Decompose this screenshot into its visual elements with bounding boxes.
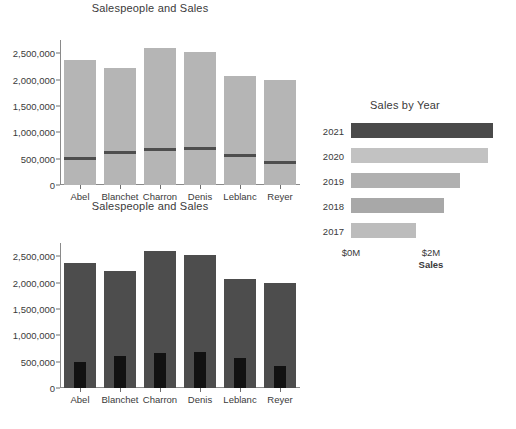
x-axis-label-denis: Denis	[188, 394, 212, 405]
bar-denis[interactable]	[184, 52, 216, 185]
y-axis-label-2018: 2018	[323, 200, 351, 211]
x-axis-tick-mark	[280, 185, 281, 189]
salespeople-sales-chart-bottom: Salespeople and Sales 0500,0001,000,0001…	[0, 198, 330, 429]
y-axis-tick-label: 2,500,000	[13, 48, 60, 59]
y-axis-tick-mark	[56, 361, 60, 362]
x-axis-label-blanchet: Blanchet	[102, 394, 139, 405]
y-axis-tick-mark	[56, 308, 60, 309]
y-axis-tick-mark	[56, 105, 60, 106]
sales-by-year-chart: Sales by Year Sales 20212020201920182017…	[310, 95, 516, 285]
x-axis-label-reyer: Reyer	[267, 394, 292, 405]
y-axis-tick-label: 2,000,000	[13, 74, 60, 85]
x-axis-tick-mark	[240, 185, 241, 189]
y-axis-tick-label: 500,000	[21, 356, 60, 367]
plot-area-year: Sales 20212020201920182017$0M$2M	[351, 118, 511, 243]
y-axis-line-top	[60, 40, 61, 185]
y-axis-tick-mark	[56, 335, 60, 336]
reference-line-blanchet[interactable]	[104, 151, 136, 154]
x-axis-tick-label: $0M	[342, 247, 360, 258]
x-axis-tick-mark	[160, 185, 161, 189]
chart-title-top: Salespeople and Sales	[0, 2, 300, 14]
y-axis-tick-mark	[56, 282, 60, 283]
reference-line-denis[interactable]	[184, 147, 216, 150]
bar-charron[interactable]	[144, 48, 176, 185]
x-axis-tick-mark	[200, 185, 201, 189]
x-axis-tick-label: $2M	[422, 247, 440, 258]
x-axis-tick-mark	[160, 388, 161, 392]
chart-title-year: Sales by Year	[310, 99, 500, 111]
bar-year-2019[interactable]	[351, 173, 460, 189]
y-axis-tick-label: 2,500,000	[13, 251, 60, 262]
bar-year-2017[interactable]	[351, 223, 416, 239]
x-axis-tick-mark	[120, 388, 121, 392]
y-axis-tick-mark	[56, 158, 60, 159]
y-axis-line-bottom	[60, 243, 61, 388]
y-axis-tick-mark	[56, 185, 60, 186]
bar-reyer[interactable]	[264, 80, 296, 185]
reference-line-abel[interactable]	[64, 157, 96, 160]
reference-line-leblanc[interactable]	[224, 154, 256, 157]
overlay-bar-reyer[interactable]	[274, 366, 287, 388]
overlay-bar-charron[interactable]	[154, 353, 167, 388]
y-axis-label-2021: 2021	[323, 125, 351, 136]
x-axis-tick-mark	[80, 388, 81, 392]
y-axis-tick-label: 1,000,000	[13, 127, 60, 138]
x-axis-tick-mark	[240, 388, 241, 392]
y-axis-label-2017: 2017	[323, 225, 351, 236]
y-axis-tick-label: 500,000	[21, 153, 60, 164]
y-axis-tick-label: 1,500,000	[13, 303, 60, 314]
x-axis-tick-mark	[200, 388, 201, 392]
bar-year-2018[interactable]	[351, 198, 444, 214]
y-axis-tick-label: 2,000,000	[13, 277, 60, 288]
x-axis-label-abel: Abel	[70, 394, 89, 405]
y-axis-label-2020: 2020	[323, 150, 351, 161]
x-axis-title-year: Sales	[351, 259, 511, 270]
overlay-bar-leblanc[interactable]	[234, 358, 247, 388]
y-axis-tick-mark	[56, 388, 60, 389]
bar-abel[interactable]	[64, 60, 96, 185]
y-axis-tick-mark	[56, 53, 60, 54]
chart-title-bottom: Salespeople and Sales	[0, 200, 300, 212]
y-axis-tick-mark	[56, 79, 60, 80]
x-axis-tick-mark	[120, 185, 121, 189]
x-axis-tick-mark	[280, 388, 281, 392]
y-axis-tick-label: 1,000,000	[13, 330, 60, 341]
overlay-bar-denis[interactable]	[194, 352, 207, 388]
plot-area-bottom: 0500,0001,000,0001,500,0002,000,0002,500…	[60, 243, 300, 388]
y-axis-tick-mark	[56, 256, 60, 257]
plot-area-top: 0500,0001,000,0001,500,0002,000,0002,500…	[60, 40, 300, 185]
overlay-bar-blanchet[interactable]	[114, 356, 127, 388]
x-axis-tick-mark	[80, 185, 81, 189]
overlay-bar-abel[interactable]	[74, 362, 87, 388]
x-axis-label-charron: Charron	[143, 394, 177, 405]
bar-blanchet[interactable]	[104, 68, 136, 185]
salespeople-sales-chart-top: Salespeople and Sales 0500,0001,000,0001…	[0, 0, 330, 200]
bar-leblanc[interactable]	[224, 76, 256, 185]
y-axis-tick-mark	[56, 132, 60, 133]
reference-line-reyer[interactable]	[264, 161, 296, 164]
reference-line-charron[interactable]	[144, 148, 176, 151]
x-axis-label-leblanc: Leblanc	[223, 394, 256, 405]
y-axis-label-2019: 2019	[323, 175, 351, 186]
bar-year-2020[interactable]	[351, 148, 488, 164]
bar-year-2021[interactable]	[351, 123, 493, 139]
y-axis-tick-label: 1,500,000	[13, 100, 60, 111]
